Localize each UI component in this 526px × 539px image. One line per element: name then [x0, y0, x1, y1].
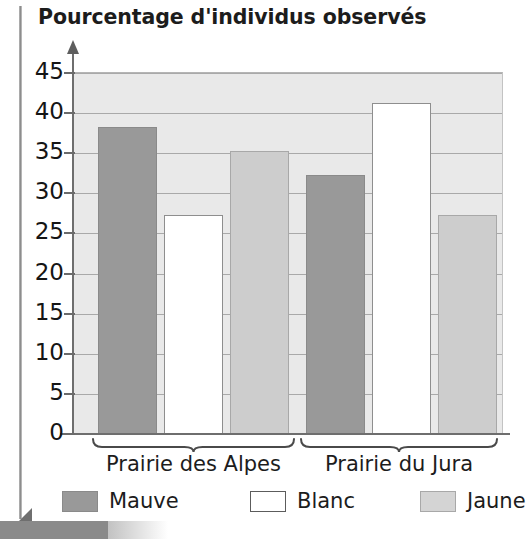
x-axis-line [60, 433, 510, 435]
y-axis-arrow-icon [67, 40, 79, 54]
y-axis-tick-label: 35 [18, 140, 64, 163]
y-axis-tick-label: 0 [18, 421, 64, 444]
legend-item-jaune[interactable]: Jaune [420, 489, 526, 513]
legend-item-blanc[interactable]: Blanc [250, 489, 355, 513]
legend-swatch-icon [250, 491, 286, 512]
bar-jaune-group2 [438, 215, 497, 434]
y-axis-tick-label: 5 [18, 381, 64, 404]
group-label: Prairie des Alpes [91, 452, 296, 476]
y-axis-tick-label: 30 [18, 180, 64, 203]
y-axis-tick-mark [64, 273, 75, 275]
y-axis-tick-mark [64, 112, 75, 114]
y-axis-tick-mark [64, 313, 75, 315]
y-axis-line [72, 52, 74, 433]
y-axis-tick-label: 10 [18, 341, 64, 364]
y-axis-tick-mark [64, 192, 75, 194]
gridline [74, 73, 502, 74]
chart-title: Pourcentage d'individus observés [38, 5, 426, 29]
y-axis-tick-mark [64, 353, 75, 355]
bar-jaune-group1 [230, 151, 289, 434]
group-brace [299, 438, 499, 453]
bar-blanc-group1 [164, 215, 223, 434]
y-axis-tick-mark [64, 152, 75, 154]
bar-mauve-group2 [306, 175, 365, 434]
y-axis-tick-labels: 051015202530354045 [14, 0, 64, 539]
y-axis-tick-label: 25 [18, 220, 64, 243]
y-axis-tick-mark [64, 433, 75, 435]
y-axis-tick-mark [64, 232, 75, 234]
gridline [74, 113, 502, 114]
legend-label: Mauve [109, 489, 179, 513]
y-axis-tick-label: 40 [18, 100, 64, 123]
legend-label: Jaune [467, 489, 526, 513]
bar-mauve-group1 [98, 127, 157, 434]
y-axis-tick-label: 45 [18, 60, 64, 83]
legend-swatch-icon [420, 491, 456, 512]
y-axis-tick-label: 20 [18, 261, 64, 284]
bar-blanc-group2 [372, 103, 431, 434]
legend-item-mauve[interactable]: Mauve [62, 489, 179, 513]
chart-legend: MauveBlancJaune [60, 489, 515, 519]
group-label: Prairie du Jura [299, 452, 499, 476]
y-axis-tick-mark [64, 72, 75, 74]
y-axis-tick-label: 15 [18, 301, 64, 324]
legend-swatch-icon [62, 491, 98, 512]
legend-label: Blanc [297, 489, 355, 513]
group-brace [91, 438, 296, 453]
y-axis-tick-mark [64, 393, 75, 395]
plot-area [74, 72, 503, 434]
